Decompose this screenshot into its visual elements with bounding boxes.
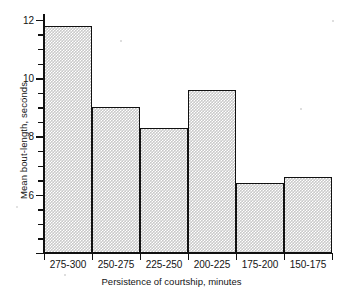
scan-speckle <box>120 40 122 42</box>
bar-chart-figure: Mean bout-length, seconds 121086 Persist… <box>0 0 343 294</box>
x-tick-label: 175-200 <box>236 259 284 270</box>
scan-speckle <box>20 98 22 100</box>
scan-speckle <box>300 108 302 110</box>
scan-speckle <box>16 206 18 208</box>
bar-200-225 <box>188 90 236 253</box>
y-tick-major <box>36 136 44 138</box>
y-tick-major <box>36 20 44 22</box>
x-tick-label: 275-300 <box>44 259 92 270</box>
bar-250-275 <box>92 107 140 253</box>
scan-speckle <box>64 274 66 276</box>
x-tick-label: 250-275 <box>92 259 140 270</box>
bar-225-250 <box>140 128 188 253</box>
x-tick-label: 200-225 <box>188 259 236 270</box>
y-tick-label: 12 <box>23 14 34 25</box>
y-tick-major <box>36 195 44 197</box>
bar-275-300 <box>44 26 92 253</box>
y-tick-label: 6 <box>28 189 34 200</box>
bar-150-175 <box>284 177 332 253</box>
bar-175-200 <box>236 183 284 253</box>
scan-speckle <box>332 20 334 22</box>
plot-area <box>44 14 332 253</box>
x-tick-label: 225-250 <box>140 259 188 270</box>
y-tick-major <box>36 78 44 80</box>
x-tick <box>332 253 333 260</box>
y-tick-label: 8 <box>28 131 34 142</box>
x-axis-label: Persistence of courtship, minutes <box>0 276 343 287</box>
y-tick-label: 10 <box>23 73 34 84</box>
x-tick-label: 150-175 <box>284 259 332 270</box>
x-tick <box>44 253 45 260</box>
